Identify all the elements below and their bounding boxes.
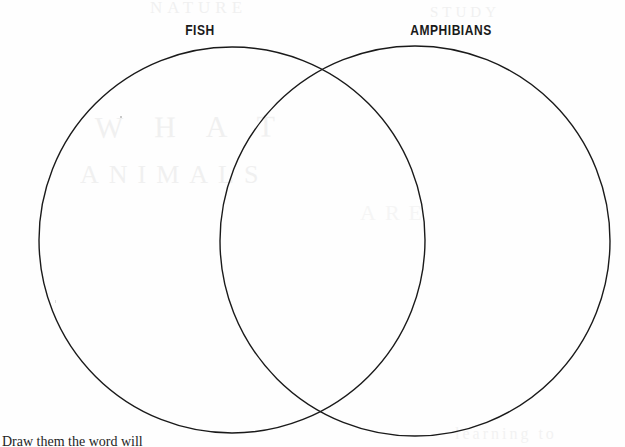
venn-label-right: AMPHIBIANS xyxy=(399,22,502,38)
venn-diagram xyxy=(0,0,625,447)
worksheet-page: NATURE STUDY W H A T ANIMALS ARE learnin… xyxy=(0,0,625,447)
venn-label-left: FISH xyxy=(166,22,235,38)
venn-circle-left[interactable] xyxy=(39,47,425,433)
instruction-text: Draw them the word will xyxy=(2,434,143,447)
venn-circle-right[interactable] xyxy=(220,46,610,436)
